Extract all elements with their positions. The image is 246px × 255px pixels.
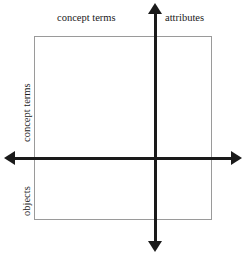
arrow-up-icon	[148, 3, 162, 14]
arrow-left-icon	[4, 151, 15, 165]
diagram-canvas: concept terms attributes concept terms o…	[0, 0, 246, 255]
arrow-down-icon	[148, 241, 162, 252]
label-left-concept-terms: concept terms	[22, 83, 33, 142]
label-top-concept-terms: concept terms	[57, 13, 116, 24]
vertical-axis-line	[154, 10, 157, 244]
context-box	[34, 36, 212, 220]
label-attributes: attributes	[165, 13, 204, 24]
label-objects: objects	[22, 186, 33, 216]
arrow-right-icon	[231, 151, 242, 165]
horizontal-axis-line	[12, 157, 234, 160]
